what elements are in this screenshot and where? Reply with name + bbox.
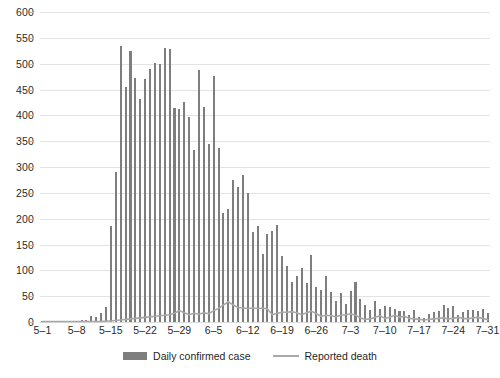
- plot-area: [40, 12, 490, 322]
- legend-item-label: Daily confirmed case: [153, 350, 250, 362]
- y-tick-mark: [30, 219, 34, 220]
- legend-item-label: Reported death: [305, 350, 377, 362]
- data-series-layer: [40, 12, 490, 322]
- x-tick-label: 5–29: [168, 324, 192, 336]
- y-tick-mark: [30, 270, 34, 271]
- legend-item-reported-death[interactable]: Reported death: [273, 350, 377, 362]
- x-tick-label: 5–22: [133, 324, 157, 336]
- x-tick-label: 7–17: [407, 324, 431, 336]
- reported-death-polyline: [42, 302, 487, 322]
- y-tick-mark: [30, 12, 34, 13]
- chart-container: 050100150200250300350400450500550600 5–1…: [0, 0, 500, 378]
- y-tick-mark: [30, 167, 34, 168]
- x-tick-label: 7–10: [373, 324, 397, 336]
- line-swatch-icon: [273, 355, 299, 357]
- y-tick-mark: [30, 296, 34, 297]
- x-tick-label: 7–3: [342, 324, 360, 336]
- y-tick-mark: [30, 115, 34, 116]
- y-tick-mark: [30, 90, 34, 91]
- legend-item-daily-confirmed-case[interactable]: Daily confirmed case: [123, 350, 250, 362]
- chart-legend: Daily confirmed case Reported death: [0, 350, 500, 362]
- x-tick-label: 6–5: [205, 324, 223, 336]
- y-tick-mark: [30, 245, 34, 246]
- y-tick-mark: [30, 193, 34, 194]
- y-axis: 050100150200250300350400450500550600: [0, 12, 34, 322]
- y-tick-mark: [30, 38, 34, 39]
- x-tick-label: 7–31: [476, 324, 500, 336]
- y-tick-mark: [30, 64, 34, 65]
- x-tick-label: 5–15: [99, 324, 123, 336]
- bar-swatch-icon: [123, 352, 147, 360]
- y-tick-mark: [30, 141, 34, 142]
- x-axis: 5–15–85–155–225–296–56–126–196–267–37–10…: [40, 322, 490, 342]
- x-tick-label: 6–26: [304, 324, 328, 336]
- x-tick-label: 6–12: [236, 324, 260, 336]
- x-tick-label: 5–1: [34, 324, 52, 336]
- x-tick-label: 5–8: [68, 324, 86, 336]
- x-tick-label: 6–19: [270, 324, 294, 336]
- reported-death-line: [40, 12, 490, 322]
- x-tick-label: 7–24: [441, 324, 465, 336]
- y-tick-mark: [30, 322, 34, 323]
